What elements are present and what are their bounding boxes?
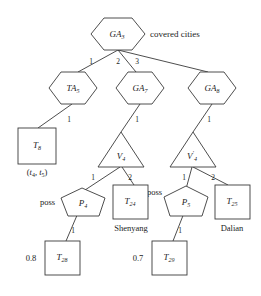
node-t28[interactable]: T28 (45, 241, 80, 275)
poss-label-p4: poss (40, 197, 55, 207)
edge-label-v4p-p5: 1 (182, 173, 186, 182)
caption-t24-city: Shenyang (114, 223, 148, 233)
edge-label-root-ga7: 2 (116, 57, 120, 66)
node-v4-prime[interactable]: V'4 (170, 132, 216, 167)
edge-v4p-to-p5 (186, 167, 192, 189)
edge-label-ga8-v4p: 1 (207, 115, 211, 124)
node-t25[interactable]: T25 (215, 185, 250, 219)
edge-label-p4-t28: 1 (71, 226, 75, 235)
weight-label-t29: 0.7 (133, 253, 144, 263)
node-v4[interactable]: V4 (98, 132, 144, 167)
edge-label-ta5-t8: 1 (67, 115, 71, 124)
edge-label-v4p-t25: 2 (211, 173, 215, 182)
node-p4[interactable]: P4 (61, 188, 105, 216)
edge-label-v4-p4: 1 (91, 173, 95, 182)
node-ga7[interactable]: GA7 (116, 72, 164, 104)
edge-label-root-ta5: 1 (89, 57, 93, 66)
edge-label-ga7-v4: 1 (135, 115, 139, 124)
node-ta5[interactable]: TA5 (49, 72, 97, 104)
and-or-graph-diagram: GA3 covered cities TA5 GA7 GA8 (0, 0, 261, 296)
edge-label-root-ga8: 3 (135, 57, 139, 66)
node-ga8[interactable]: GA8 (188, 72, 236, 104)
caption-t8-times: (t4, t5) (27, 167, 48, 178)
covered-cities-note: covered cities (150, 29, 200, 39)
edge-label-p5-t29: 1 (178, 226, 182, 235)
node-t24[interactable]: T24 (113, 185, 148, 219)
edge-root-to-ta5 (78, 50, 118, 72)
edge-root-to-ga8 (118, 50, 208, 72)
node-ga3[interactable]: GA3 (91, 18, 145, 50)
caption-t25-city: Dalian (221, 223, 244, 233)
poss-label-p5: poss (147, 187, 162, 197)
figure-canvas: GA3 covered cities TA5 GA7 GA8 (0, 0, 261, 296)
node-t29[interactable]: T29 (152, 241, 187, 275)
edge-label-v4-t24: 2 (128, 173, 132, 182)
triangle-shape-v4 (98, 132, 144, 167)
node-p5[interactable]: P5 (164, 186, 208, 216)
node-t8[interactable]: T8 (18, 128, 56, 164)
weight-label-t28: 0.8 (26, 253, 37, 263)
